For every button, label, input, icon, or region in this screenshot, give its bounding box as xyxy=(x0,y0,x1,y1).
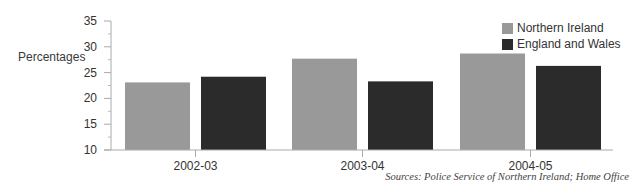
legend: Northern Ireland England and Wales xyxy=(502,20,621,52)
y-axis-label: Percentages xyxy=(18,50,85,64)
bars xyxy=(125,54,601,150)
y-tick-label: 25 xyxy=(84,66,98,80)
legend-label: Northern Ireland xyxy=(517,21,604,35)
bar-northern-ireland-2003-04 xyxy=(292,59,357,150)
bar-england-and-wales-2004-05 xyxy=(536,66,601,150)
legend-label: England and Wales xyxy=(517,37,621,51)
bar-england-and-wales-2003-04 xyxy=(368,81,433,150)
x-tick-label: 2003-04 xyxy=(340,159,384,173)
legend-item-northern-ireland: Northern Ireland xyxy=(502,20,621,36)
legend-item-england-and-wales: England and Wales xyxy=(502,36,621,52)
y-axis: 101520253035 xyxy=(84,14,111,157)
x-axis: 2002-032003-042004-05 xyxy=(104,150,613,173)
y-tick-label: 30 xyxy=(84,40,98,54)
legend-swatch-england-and-wales xyxy=(502,39,513,50)
y-tick-label: 20 xyxy=(84,91,98,105)
source-note: Sources: Police Service of Northern Irel… xyxy=(385,171,629,182)
y-tick-label: 35 xyxy=(84,14,98,28)
bar-northern-ireland-2004-05 xyxy=(460,54,525,150)
legend-swatch-northern-ireland xyxy=(502,23,513,34)
x-tick-label: 2002-03 xyxy=(173,159,217,173)
bar-england-and-wales-2002-03 xyxy=(201,77,266,150)
y-tick-label: 15 xyxy=(84,117,98,131)
bar-northern-ireland-2002-03 xyxy=(125,82,190,150)
y-tick-label: 10 xyxy=(84,143,98,157)
